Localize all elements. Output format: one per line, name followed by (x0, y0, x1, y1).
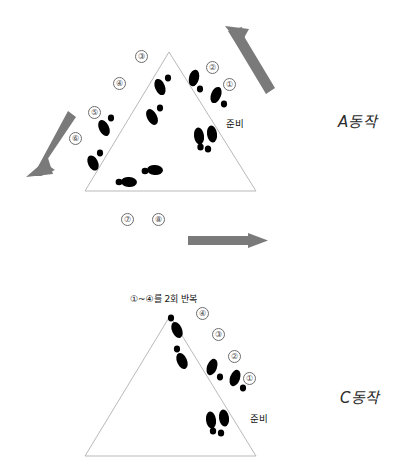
footprint-pair-ready (205, 409, 230, 437)
panel-c-repeat-note: ①~④를 2회 반복 (130, 293, 197, 305)
panel-a-step-number-5: ⑤ (88, 106, 101, 119)
triangle-outline (85, 316, 256, 456)
footprint-step-7 (116, 176, 138, 187)
panel-c-step-number-2: ② (228, 350, 241, 363)
panel-c-step-number-3: ③ (212, 328, 225, 341)
panel-a-step-number-3: ③ (135, 50, 148, 63)
panel-a-motion-label: A동작 (338, 110, 377, 131)
panel-a-stage: ③ ④ ⑤ ⑥ ② ① ⑦ ⑧ 준비 A동작 (0, 0, 406, 268)
panel-a-motion: ③ ④ ⑤ ⑥ ② ① ⑦ ⑧ 준비 A동작 (0, 0, 406, 268)
footprint-step-3 (152, 75, 171, 97)
panel-a-step-number-4: ④ (113, 77, 126, 90)
footprint-step-4 (144, 105, 164, 127)
panel-c-graphics (0, 268, 406, 476)
footprint-step-2 (187, 69, 203, 93)
panel-a-step-number-1: ① (223, 78, 236, 91)
panel-c-stage: ④ ③ ② ① ①~④를 2회 반복 준비 C동작 (0, 268, 406, 476)
panel-a-step-number-6: ⑥ (69, 132, 82, 145)
panel-a-step-number-2: ② (206, 61, 219, 74)
panel-c-step-number-4: ④ (196, 307, 209, 320)
panel-c-ready-label: 준비 (250, 413, 268, 425)
footprint-step-3 (174, 346, 190, 371)
footprint-step-5 (96, 115, 114, 138)
panel-a-graphics (0, 0, 406, 268)
panel-c-motion: ④ ③ ② ① ①~④를 2회 반복 준비 C동작 (0, 268, 406, 476)
footwork-diagram-figure: ③ ④ ⑤ ⑥ ② ① ⑦ ⑧ 준비 A동작 (0, 0, 406, 476)
panel-a-step-number-8: ⑧ (152, 213, 165, 226)
panel-c-motion-label: C동작 (340, 386, 379, 407)
panel-a-ready-label: 준비 (226, 118, 244, 130)
footprint-step-8 (142, 164, 164, 175)
arrow-right-icon (188, 233, 268, 248)
arrow-down-left-icon (26, 111, 76, 177)
panel-c-step-number-1: ① (243, 372, 256, 385)
footprint-step-6 (85, 150, 103, 173)
panel-a-step-number-7: ⑦ (121, 213, 134, 226)
footprint-pair-ready (193, 125, 218, 153)
